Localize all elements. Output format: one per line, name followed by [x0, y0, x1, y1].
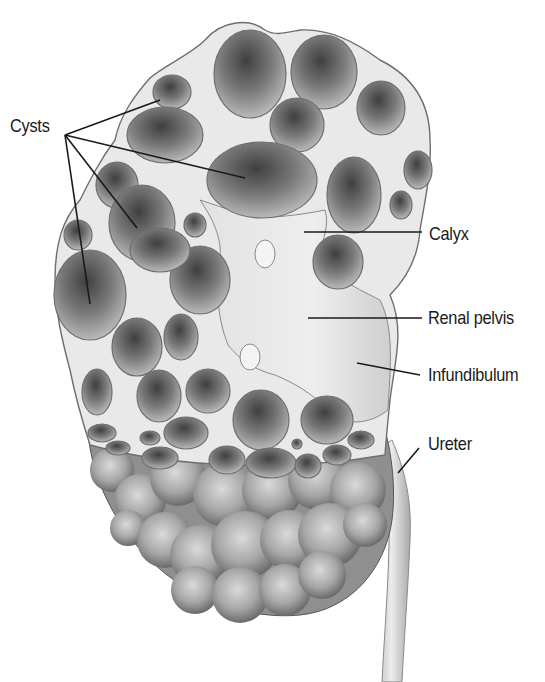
kidney-diagram: Cysts Calyx Renal pelvis Infundibulum Ur…	[0, 0, 545, 682]
label-cysts: Cysts	[10, 116, 50, 135]
label-ureter: Ureter	[428, 434, 472, 453]
label-calyx: Calyx	[429, 224, 469, 243]
kidney-illustration	[0, 0, 545, 682]
label-infundibulum: Infundibulum	[428, 365, 518, 384]
label-renal-pelvis: Renal pelvis	[428, 308, 514, 327]
leader-ureter	[398, 448, 419, 473]
